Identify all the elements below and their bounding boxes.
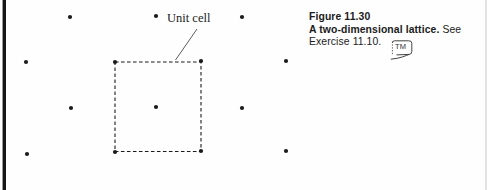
textbook-figure-page: Unit cell Figure 11.30 A two-dimensional… bbox=[0, 0, 487, 190]
tm-icon-text: TM bbox=[395, 42, 406, 51]
lattice-point bbox=[284, 149, 288, 153]
lattice-point bbox=[69, 106, 73, 110]
figure-title-suffix: See bbox=[439, 24, 461, 35]
lattice-point bbox=[154, 105, 158, 109]
unit-cell-label: Unit cell bbox=[167, 11, 210, 26]
figure-number: Figure 11.30 bbox=[309, 11, 479, 24]
lattice-points bbox=[24, 14, 288, 156]
tm-media-icon: TM bbox=[389, 38, 415, 63]
lattice-point bbox=[240, 106, 244, 110]
lattice-point bbox=[240, 15, 244, 19]
figure-title-line: A two-dimensional lattice. See bbox=[309, 24, 479, 37]
lattice-point bbox=[68, 15, 72, 19]
lattice-point bbox=[25, 152, 29, 156]
lattice-point bbox=[154, 14, 158, 18]
figure-title: A two-dimensional lattice. bbox=[309, 24, 439, 35]
lattice-point bbox=[24, 60, 28, 64]
lattice-point bbox=[284, 59, 288, 63]
unit-cell-leader-line bbox=[176, 29, 198, 60]
